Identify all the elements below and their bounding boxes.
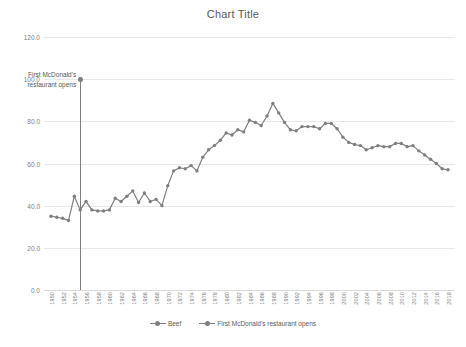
x-axis-tick-label: 1976 <box>201 292 207 305</box>
legend-item-beef[interactable]: Beef <box>150 320 181 327</box>
x-axis-tick-label: 1988 <box>271 292 277 305</box>
line-marker-icon <box>199 320 215 327</box>
x-axis-tick-label: 1970 <box>166 292 172 305</box>
chart-legend: Beef First McDonald's restaurant opens <box>0 320 466 327</box>
x-axis-tick-label: 1960 <box>107 292 113 305</box>
x-axis-tick-label: 1950 <box>49 292 55 305</box>
x-axis-tick-label: 1982 <box>236 292 242 305</box>
x-axis-tick-label: 1978 <box>212 292 218 305</box>
chart-container: Chart Title 0.020.040.060.080.0100.0120.… <box>0 0 466 347</box>
x-axis-tick-label: 1986 <box>259 292 265 305</box>
y-axis-tick-label: 40.0 <box>27 202 40 209</box>
x-axis-tick-label: 2004 <box>364 292 370 305</box>
y-axis-tick-label: 120.0 <box>24 34 40 41</box>
annotation-vertical-line <box>80 79 81 290</box>
x-axis-tick-label: 2010 <box>399 292 405 305</box>
x-axis-tick-label: 1996 <box>318 292 324 305</box>
x-axis-tick-label: 1964 <box>131 292 137 305</box>
legend-label: First McDonald's restaurant opens <box>217 320 316 327</box>
x-axis-tick-label: 1958 <box>96 292 102 305</box>
x-axis-tick-labels: 1950195219541956195819601962196419661968… <box>44 292 455 322</box>
x-axis-tick-label: 1980 <box>224 292 230 305</box>
y-axis-tick-label: 0.0 <box>31 287 40 294</box>
legend-label: Beef <box>168 320 181 327</box>
x-axis-tick-label: 1984 <box>248 292 254 305</box>
y-axis-tick-label: 60.0 <box>27 160 40 167</box>
x-axis-tick-label: 1962 <box>119 292 125 305</box>
annotation-label-line1: First McDonald's <box>14 70 76 79</box>
x-axis-tick-label: 1952 <box>61 292 67 305</box>
x-axis-tick-label: 2012 <box>411 292 417 305</box>
x-axis-tick-label: 1968 <box>154 292 160 305</box>
line-marker-icon <box>150 320 166 327</box>
annotation-marker <box>78 77 83 82</box>
x-axis-line <box>44 290 455 291</box>
x-axis-tick-label: 1972 <box>177 292 183 305</box>
x-axis-tick-label: 1994 <box>306 292 312 305</box>
x-axis-tick-label: 2006 <box>376 292 382 305</box>
x-axis-tick-label: 2000 <box>341 292 347 305</box>
y-axis-tick-label: 80.0 <box>27 118 40 125</box>
annotation-label-line2: restaurant opens <box>14 80 76 89</box>
x-axis-tick-label: 1998 <box>329 292 335 305</box>
x-axis-tick-label: 1966 <box>142 292 148 305</box>
page-title: Chart Title <box>0 8 466 20</box>
x-axis-tick-label: 1974 <box>189 292 195 305</box>
x-axis-tick-label: 1954 <box>72 292 78 305</box>
x-axis-tick-label: 2002 <box>353 292 359 305</box>
legend-item-mcdonalds[interactable]: First McDonald's restaurant opens <box>199 320 316 327</box>
annotation-label: First McDonald'srestaurant opens <box>14 70 76 89</box>
x-axis-tick-label: 2018 <box>446 292 452 305</box>
x-axis-tick-label: 1992 <box>294 292 300 305</box>
x-axis-tick-label: 2016 <box>434 292 440 305</box>
x-axis-tick-label: 1956 <box>84 292 90 305</box>
x-axis-tick-label: 1990 <box>283 292 289 305</box>
y-axis-tick-label: 20.0 <box>27 244 40 251</box>
x-axis-tick-label: 2008 <box>388 292 394 305</box>
data-series-beef <box>44 37 455 290</box>
x-axis-tick-label: 2014 <box>423 292 429 305</box>
plot-area: 0.020.040.060.080.0100.0120.0First McDon… <box>44 37 455 290</box>
